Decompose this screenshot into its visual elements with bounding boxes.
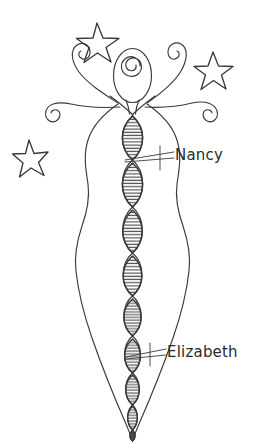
star-mid-left-icon	[13, 140, 49, 177]
arm-upper-left	[72, 43, 118, 103]
head-spiral-icon	[122, 57, 142, 77]
arm-lower-right	[145, 102, 217, 122]
label-nancy: Nancy	[175, 148, 223, 163]
dna-helix-spine	[122, 116, 142, 441]
arm-lower-left	[46, 103, 120, 122]
star-top-right-icon	[194, 52, 233, 90]
drawing-canvas: Nancy Elizabeth	[0, 0, 265, 443]
arm-upper-right	[147, 43, 186, 103]
goddess-figure-illustration	[0, 0, 265, 443]
star-top-left-icon	[77, 23, 120, 63]
label-elizabeth: Elizabeth	[167, 345, 238, 360]
